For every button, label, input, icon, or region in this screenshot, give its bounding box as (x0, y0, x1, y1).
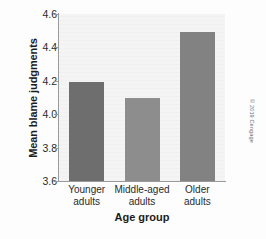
x-tick-label-line: adults (114, 196, 169, 208)
x-tick-label-line: adults (68, 196, 105, 208)
y-tick-mark (54, 148, 58, 149)
y-tick-mark (54, 47, 58, 48)
x-tick-label: Olderadults (184, 184, 211, 207)
y-axis-tick-labels: 3.63.84.04.24.44.6 (33, 14, 57, 181)
x-axis-title: Age group (59, 211, 225, 223)
bar (180, 32, 215, 181)
y-tick-mark (54, 81, 58, 82)
copyright-credit: © 2019 Cengage (249, 84, 255, 158)
x-tick-label-line: Older (184, 184, 211, 196)
x-axis-line (58, 181, 226, 182)
x-axis-tick-labels: YoungeradultsMiddle-agedadultsOlderadult… (59, 184, 225, 212)
plot-area (59, 14, 225, 181)
bar (125, 98, 160, 182)
bar-chart-figure: Mean blame judgments 3.63.84.04.24.44.6 … (0, 0, 266, 239)
x-tick-label-line: Younger (68, 184, 105, 196)
x-tick-label-line: Middle-aged (114, 184, 169, 196)
x-tick-label-line: adults (184, 196, 211, 208)
bar (69, 82, 104, 181)
y-tick-mark (54, 114, 58, 115)
x-tick-label: Middle-agedadults (114, 184, 169, 207)
y-tick-mark (54, 14, 58, 15)
x-tick-label: Youngeradults (68, 184, 105, 207)
y-tick-mark (54, 181, 58, 182)
